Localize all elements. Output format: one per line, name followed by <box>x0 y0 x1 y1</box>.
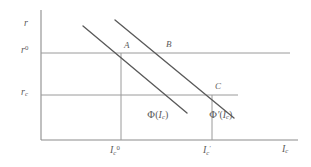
y-axis-label: r <box>24 18 28 28</box>
curve-label-phi-symbol: Φ <box>147 109 155 120</box>
y-tick-label-r0: r0 <box>21 45 28 55</box>
y-axis-label-text: r <box>24 17 28 28</box>
point-label-b: B <box>166 40 172 49</box>
x-tick-ic0-superscript: 0 <box>116 144 119 151</box>
y-tick-r0-superscript: 0 <box>25 44 28 51</box>
point-label-b-text: B <box>166 39 172 49</box>
point-label-c: C <box>215 82 221 91</box>
point-label-a: A <box>124 41 130 50</box>
curve-label-phi-prime: Φ′(Ic) <box>209 110 232 121</box>
x-tick-label-ic0: Ic0 <box>110 145 120 157</box>
x-tick-label-ic-prime: Ic′ <box>203 145 211 157</box>
diagram-canvas <box>0 0 311 167</box>
curve-label-phi: Φ(Ic) <box>147 110 168 121</box>
x-tick-icprime-prime-mark: ′ <box>209 144 211 151</box>
point-label-c-text: C <box>215 81 221 91</box>
y-tick-rc-subscript: c <box>25 90 28 97</box>
curve-label-phi-prime-close-paren: ) <box>229 109 232 120</box>
economics-diagram-figure: r r0 rc Ic0 Ic′ Ic A B C Φ(Ic) Φ′(Ic) <box>0 0 311 167</box>
curve-label-phi-prime-symbol: Φ <box>209 109 217 120</box>
x-axis-label-subscript: c <box>285 147 288 154</box>
curve-label-phi-close-paren: ) <box>165 109 168 120</box>
y-tick-label-rc: rc <box>21 87 28 98</box>
point-label-a-text: A <box>124 40 130 50</box>
x-axis-label: Ic <box>282 144 288 155</box>
